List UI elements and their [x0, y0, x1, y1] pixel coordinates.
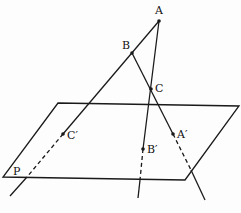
plane-P [3, 103, 239, 180]
line-BC-Aprime-solid [132, 53, 173, 134]
line-BC-Aprime-tail [191, 170, 205, 200]
point-B [130, 51, 134, 55]
point-A-prime [171, 132, 175, 136]
point-A [157, 19, 161, 23]
label-C: C [155, 83, 163, 94]
label-plane-P: P [13, 166, 20, 177]
label-B-prime: B′ [147, 144, 158, 155]
line-AB-Cprime-dashed [27, 134, 63, 177]
point-C [149, 87, 153, 91]
label-A: A [155, 5, 163, 16]
diagram-canvas: A B C C′ B′ A′ P [0, 0, 241, 213]
point-B-prime [141, 147, 145, 151]
diagram-svg [0, 0, 241, 213]
line-AC-Bprime-dashed [140, 149, 143, 180]
point-C-prime [61, 132, 65, 136]
label-C-prime: C′ [67, 130, 78, 141]
line-AC-Bprime-tail [138, 180, 140, 198]
label-B: B [122, 40, 130, 51]
line-AB-Cprime-tail [10, 177, 27, 196]
label-A-prime: A′ [177, 129, 187, 140]
